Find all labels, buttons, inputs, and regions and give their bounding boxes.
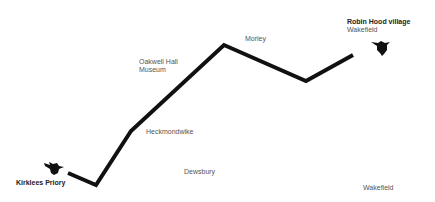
label-oakwell-hall-2: Museum xyxy=(139,66,166,74)
start-marker-icon xyxy=(42,160,66,178)
route-map: Kirklees Priory Robin Hood village Wakef… xyxy=(0,0,435,202)
label-heckmondwike: Heckmondwike xyxy=(146,128,193,136)
label-robin-hood-subtitle: Wakefield xyxy=(347,26,377,34)
label-oakwell-hall-1: Oakwell Hall xyxy=(139,58,178,66)
label-robin-hood-village: Robin Hood village xyxy=(347,18,410,26)
label-kirklees-priory: Kirklees Priory xyxy=(16,179,65,187)
label-morley: Morley xyxy=(245,35,266,43)
label-wakefield: Wakefield xyxy=(363,184,393,192)
end-marker-icon xyxy=(370,38,392,58)
label-dewsbury: Dewsbury xyxy=(184,168,215,176)
